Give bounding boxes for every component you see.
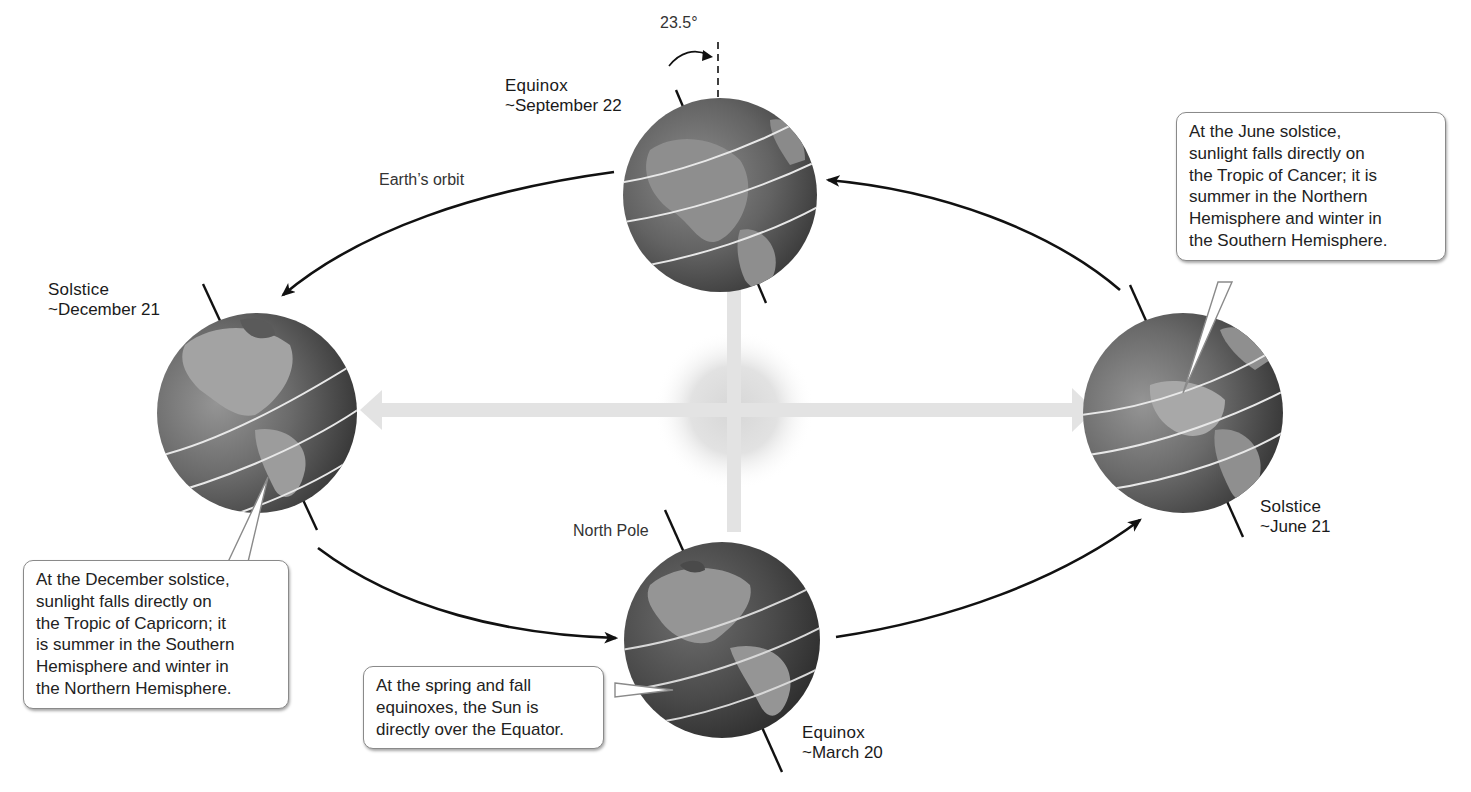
callout-line: sunlight falls directly on: [1189, 143, 1433, 165]
callout-line: sunlight falls directly on: [36, 591, 276, 613]
callout-line: is summer in the Southern: [36, 634, 276, 656]
callout-line: At the spring and fall: [376, 675, 591, 697]
north-pole-label: North Pole: [573, 521, 649, 540]
label-equinox-march: Equinox ~March 20: [802, 723, 883, 764]
callout-line: equinoxes, the Sun is: [376, 697, 591, 719]
label-solstice-december: Solstice ~December 21: [48, 280, 160, 321]
orbit-arrow-jun-to-sep: [828, 180, 1120, 290]
tilt-angle-label: 23.5°: [660, 13, 698, 32]
callout-december-solstice: At the December solstice, sunlight falls…: [23, 560, 289, 709]
callout-june-solstice: At the June solstice, sunlight falls dir…: [1176, 112, 1446, 261]
callout-equinoxes: At the spring and fall equinoxes, the Su…: [363, 666, 604, 749]
globe-december: [140, 284, 365, 535]
season-date: ~September 22: [505, 96, 622, 116]
callout-line: the Tropic of Cancer; it is: [1189, 165, 1433, 187]
season-name: Equinox: [802, 723, 883, 743]
callout-line: summer in the Northern: [1189, 186, 1433, 208]
callout-line: the Northern Hemisphere.: [36, 678, 276, 700]
callout-line: Hemisphere and winter in: [1189, 208, 1433, 230]
earths-orbit-label: Earth’s orbit: [379, 170, 464, 189]
season-date: ~March 20: [802, 743, 883, 763]
callout-line: At the June solstice,: [1189, 121, 1433, 143]
label-solstice-june: Solstice ~June 21: [1260, 497, 1330, 538]
orbit-arrow-mar-to-jun: [836, 520, 1140, 637]
callout-line: the Tropic of Capricorn; it: [36, 613, 276, 635]
callout-line: Hemisphere and winter in: [36, 656, 276, 678]
season-date: ~December 21: [48, 300, 160, 320]
callout-line: directly over the Equator.: [376, 719, 591, 741]
globe-september: [600, 42, 830, 303]
season-name: Equinox: [505, 76, 622, 96]
season-date: ~June 21: [1260, 517, 1330, 537]
callout-line: At the December solstice,: [36, 569, 276, 591]
season-name: Solstice: [1260, 497, 1330, 517]
callout-line: the Southern Hemisphere.: [1189, 230, 1433, 252]
label-equinox-september: Equinox ~September 22: [505, 76, 622, 117]
orbit-arrow-dec-to-mar: [318, 548, 616, 638]
season-name: Solstice: [48, 280, 160, 300]
orbit-arrow-sep-to-dec: [283, 172, 614, 295]
